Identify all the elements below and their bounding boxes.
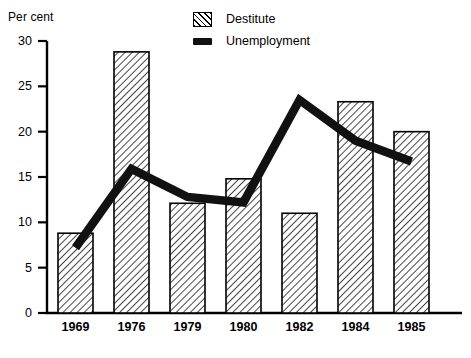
y-axis-tick-label: 25	[4, 79, 32, 93]
bar-series-destitute	[58, 52, 429, 313]
x-axis-tick-label: 1982	[270, 320, 330, 334]
x-axis-tick-label: 1969	[46, 320, 106, 334]
chart-container: Per cent Destitute Unemployment 05101520…	[0, 0, 471, 358]
bar	[170, 203, 205, 313]
y-axis-tick-label: 20	[4, 125, 32, 139]
plot-area	[0, 0, 471, 358]
x-axis-tick-label: 1976	[102, 320, 162, 334]
y-axis-tick-label: 10	[4, 215, 32, 229]
x-axis-tick-label: 1979	[158, 320, 218, 334]
y-axis-tick-label: 15	[4, 170, 32, 184]
bar	[282, 213, 317, 313]
y-axis-tick-label: 5	[4, 261, 32, 275]
x-axis-tick-label: 1985	[382, 320, 442, 334]
y-axis-tick-label: 0	[4, 306, 32, 320]
x-axis-tick-label: 1984	[326, 320, 386, 334]
x-axis-tick-label: 1980	[214, 320, 274, 334]
y-axis-tick-label: 30	[4, 34, 32, 48]
y-axis-ticks	[38, 41, 47, 313]
